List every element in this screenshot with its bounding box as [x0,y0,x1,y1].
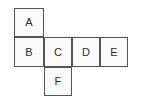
net-cell-f: F [44,67,72,96]
net-cell-label-d: D [82,47,90,58]
net-cell-c: C [44,37,72,67]
net-cell-d: D [72,37,100,67]
net-cell-b: B [14,37,44,67]
net-cell-label-c: C [54,47,62,58]
net-cell-e: E [100,37,128,67]
net-cell-label-b: B [25,47,33,58]
net-cell-label-e: E [110,47,118,58]
net-cell-label-f: F [55,76,62,87]
net-cell-a: A [14,8,44,37]
net-cell-label-a: A [25,17,33,28]
cube-net-diagram: A B C D E F [0,0,141,106]
